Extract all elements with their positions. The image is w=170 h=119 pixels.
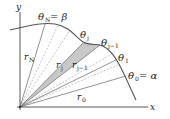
origin-point bbox=[19, 106, 21, 108]
label-r-0: r 0 bbox=[77, 92, 86, 103]
svg-text:θ: θ bbox=[128, 70, 134, 81]
svg-text:θ: θ bbox=[118, 52, 124, 63]
ray-r-j-minus-1 bbox=[20, 45, 100, 107]
svg-text:1: 1 bbox=[125, 57, 129, 64]
label-theta-j-minus-1: θ j−1 bbox=[101, 37, 119, 50]
svg-text:j−1: j−1 bbox=[76, 64, 88, 72]
y-axis-label: y bbox=[15, 2, 22, 12]
svg-text:0: 0 bbox=[82, 96, 86, 103]
label-r-N: r N bbox=[24, 52, 34, 63]
svg-text:= α: = α bbox=[139, 70, 158, 81]
label-r-j-minus-1: r j−1 bbox=[72, 60, 88, 72]
svg-text:N: N bbox=[29, 56, 34, 63]
polar-sector-diagram: y x θ N = β θ j θ j−1 θ 1 θ 0 = α r N r … bbox=[0, 0, 170, 119]
x-axis-label: x bbox=[150, 102, 155, 112]
label-theta-1: θ 1 bbox=[118, 52, 129, 64]
svg-text:θ: θ bbox=[101, 37, 107, 48]
svg-text:θ: θ bbox=[80, 29, 86, 40]
label-theta-0: θ 0 = α bbox=[128, 70, 158, 82]
svg-text:j: j bbox=[86, 34, 89, 42]
svg-text:j: j bbox=[60, 64, 63, 72]
svg-text:j−1: j−1 bbox=[107, 42, 119, 50]
svg-text:θ: θ bbox=[38, 11, 44, 22]
label-theta-N: θ N = β bbox=[38, 11, 68, 23]
svg-text:= β: = β bbox=[50, 11, 68, 22]
